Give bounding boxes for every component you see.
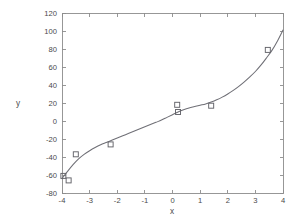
y-tick-label: -20	[46, 135, 57, 144]
y-tick-label: 120	[44, 9, 57, 18]
chart-figure: -4-3-2-101234 -80-60-40-2002040608010012…	[0, 0, 294, 223]
y-tick-label: 60	[49, 63, 57, 72]
x-tick-label: 4	[281, 196, 285, 205]
y-tick-label: -40	[46, 153, 57, 162]
scatter-plot: -4-3-2-101234 -80-60-40-2002040608010012…	[0, 0, 294, 223]
x-tick-label: 3	[253, 196, 257, 205]
x-axis-tick-labels: -4-3-2-101234	[59, 196, 286, 205]
y-axis-tick-labels: -80-60-40-20020406080100120	[44, 9, 57, 198]
y-tick-label: -60	[46, 171, 57, 180]
x-tick-label: -1	[141, 196, 148, 205]
x-tick-label: -2	[114, 196, 121, 205]
y-tick-label: 0	[53, 117, 57, 126]
x-tick-label: 1	[198, 196, 202, 205]
x-tick-label: -3	[86, 196, 93, 205]
x-tick-label: 2	[226, 196, 230, 205]
y-tick-label: 100	[44, 27, 57, 36]
y-tick-label: 20	[49, 99, 57, 108]
y-axis-title: y	[16, 99, 21, 108]
x-tick-label: 0	[170, 196, 174, 205]
x-tick-label: -4	[59, 196, 66, 205]
plot-background	[62, 13, 283, 193]
y-tick-label: -80	[46, 189, 57, 198]
y-tick-label: 40	[49, 81, 57, 90]
y-tick-label: 80	[49, 45, 57, 54]
x-axis-title: x	[170, 207, 174, 216]
